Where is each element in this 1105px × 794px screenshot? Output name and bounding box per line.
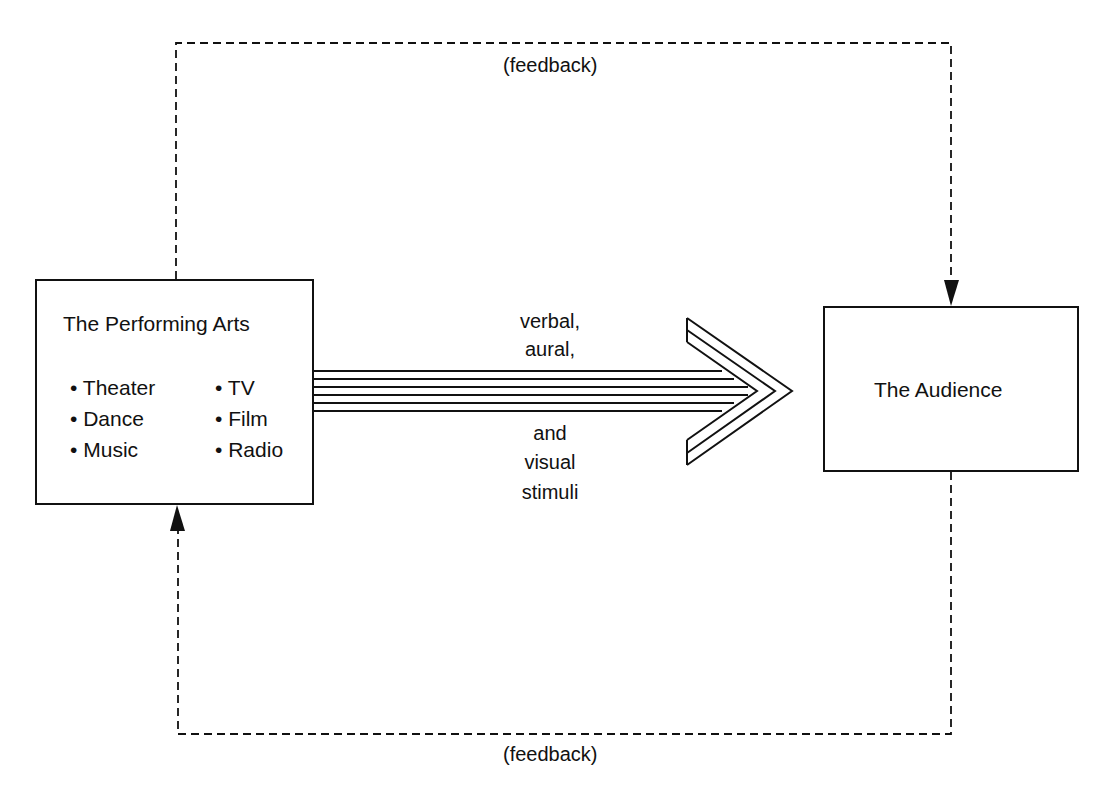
arrow-down-icon [944,280,959,306]
item-label: Dance [83,407,144,430]
stimuli-label-visual: visual [480,452,620,472]
feedback-label-bottom: (feedback) [503,744,598,764]
feedback-label-top: (feedback) [503,55,598,75]
item-label: TV [228,376,255,399]
stimuli-label-stimuli: stimuli [480,482,620,502]
list-item-radio: • Radio [215,439,283,460]
list-item-film: • Film [215,408,268,429]
bullet-icon: • [215,438,222,461]
item-label: Radio [228,438,283,461]
list-item-tv: • TV [215,377,255,398]
audience-title: The Audience [874,379,1002,400]
feedback-loop-bottom [178,472,951,734]
bullet-icon: • [215,376,222,399]
list-item-music: • Music [70,439,138,460]
performing-arts-title: The Performing Arts [63,313,250,334]
stimuli-label-and: and [480,423,620,443]
stimuli-label-verbal: verbal, [480,311,620,331]
communication-diagram: The Performing Arts • Theater • Dance • … [0,0,1105,794]
arrow-up-icon [170,505,185,531]
bullet-icon: • [70,438,77,461]
bullet-icon: • [70,376,77,399]
feedback-loop-top [176,43,951,282]
stimuli-arrowhead-icon [687,318,792,465]
item-label: Theater [83,376,155,399]
stimuli-label-aural: aural, [480,339,620,359]
item-label: Music [83,438,138,461]
list-item-dance: • Dance [70,408,144,429]
bullet-icon: • [70,407,77,430]
bullet-icon: • [215,407,222,430]
stimuli-arrow-shaft [313,371,748,411]
item-label: Film [228,407,268,430]
list-item-theater: • Theater [70,377,155,398]
